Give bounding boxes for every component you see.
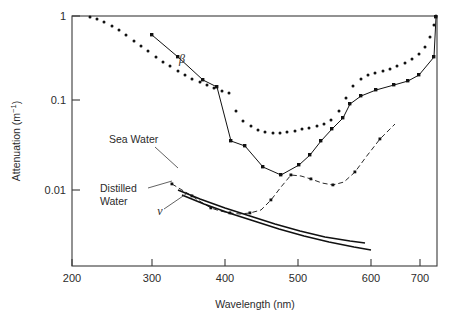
annotation-nu-symbol: ν <box>157 204 163 218</box>
y-tick-label-0.01: 0.01 <box>45 184 66 196</box>
annotation-distilled-water-label-line2: Water <box>100 195 128 207</box>
annotation-distilled-water-label-line1: Distilled <box>100 182 137 194</box>
y-axis-title-exponent: −1 <box>9 104 18 113</box>
y-axis-title: Attenuation (m−1) <box>9 101 22 181</box>
x-tick-label-600: 600 <box>362 272 380 284</box>
x-tick-label-200: 200 <box>63 272 81 284</box>
attenuation-vs-wavelength-chart: 200 300 400 500 600 700 1 0.1 0.01 Wavel… <box>0 0 454 324</box>
annotation-sea-water-leader <box>155 147 178 168</box>
y-axis-ticks <box>72 16 80 190</box>
svg-text:Attenuation (m−1): Attenuation (m−1) <box>9 101 22 181</box>
y-tick-label-0.1: 0.1 <box>51 94 66 106</box>
series-nu-upper-solid <box>178 190 365 243</box>
x-axis-title: Wavelength (nm) <box>215 298 295 310</box>
y-axis-title-close: ) <box>10 101 22 105</box>
x-tick-label-300: 300 <box>143 272 161 284</box>
x-tick-label-400: 400 <box>216 272 234 284</box>
x-axis-ticks <box>72 259 420 266</box>
annotation-nu-leader <box>164 194 186 209</box>
series-sea-water-dotted <box>89 15 438 135</box>
y-axis-title-main: Attenuation (m <box>10 113 22 182</box>
y-tick-label-1: 1 <box>60 10 66 22</box>
x-tick-label-700: 700 <box>411 272 429 284</box>
chart-figure: 200 300 400 500 600 700 1 0.1 0.01 Wavel… <box>0 0 454 324</box>
x-tick-label-500: 500 <box>289 272 307 284</box>
annotation-sea-water-label: Sea Water <box>109 133 159 145</box>
series-beta-solid <box>150 15 437 176</box>
annotation-distilled-water-leader <box>148 181 172 188</box>
annotation-beta-symbol: β <box>178 52 185 66</box>
